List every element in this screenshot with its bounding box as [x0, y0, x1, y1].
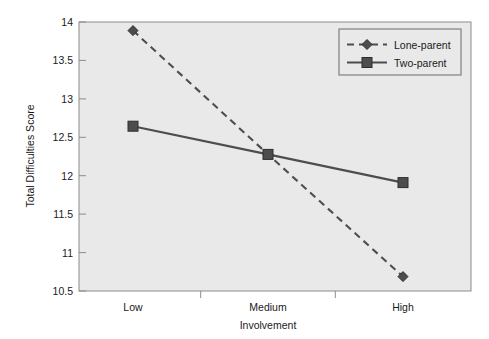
y-tick-label-12-5: 12.5 — [53, 131, 74, 143]
legend-label-lone-parent: Lone-parent — [394, 39, 451, 51]
x-category-label-medium: Medium — [249, 301, 287, 313]
chart-figure: 14 13.5 13 12.5 12 11.5 11 10.5 Total Di… — [0, 0, 489, 339]
data-point-two-parent-low — [128, 121, 138, 131]
y-tick-label-10-5: 10.5 — [53, 285, 74, 297]
y-axis-title: Total Difficulties Score — [24, 104, 36, 207]
y-tick-label-11-5: 11.5 — [53, 208, 73, 220]
data-point-two-parent-medium — [263, 149, 273, 159]
y-tick-label-13: 13 — [61, 93, 73, 105]
x-category-label-low: Low — [123, 301, 143, 313]
y-tick-label-12: 12 — [61, 170, 73, 182]
data-point-two-parent-high — [398, 178, 408, 188]
legend-marker-square-icon — [362, 58, 372, 68]
x-axis-title: Involvement — [240, 319, 297, 331]
y-tick-label-11: 11 — [62, 247, 73, 259]
interaction-plot-svg: 14 13.5 13 12.5 12 11.5 11 10.5 Total Di… — [0, 0, 489, 339]
legend-label-two-parent: Two-parent — [394, 57, 447, 69]
y-tick-label-14: 14 — [61, 16, 73, 28]
y-tick-label-13-5: 13.5 — [53, 54, 74, 66]
chart-legend: Lone-parent Two-parent — [339, 29, 461, 75]
x-category-label-high: High — [392, 301, 414, 313]
legend-entry-two-parent[interactable]: Two-parent — [347, 57, 447, 69]
